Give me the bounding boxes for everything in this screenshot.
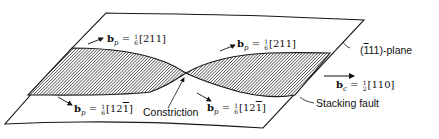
arrow-bp-lower-right [197, 93, 211, 101]
diagram-canvas [0, 0, 439, 139]
bp-upper-left-label: bp = 16[211] [107, 33, 166, 49]
constriction-label: Constriction [143, 106, 198, 118]
arrow-bp-lower-left [58, 97, 72, 105]
stacking-fault-right [186, 53, 330, 97]
bc-label: bc = 12[110] [336, 79, 394, 95]
bp-upper-right-label: bp = 16[211] [237, 38, 296, 54]
stacking-fault-left [28, 48, 186, 95]
bp-lower-right-label: bp = 16[121] [207, 102, 266, 118]
leader-plane [343, 42, 350, 48]
leader-stacking-fault [300, 97, 314, 103]
bp-lower-left-label: bp = 16[121] [74, 103, 133, 119]
arrow-bp-upper-left [88, 38, 103, 44]
stacking-fault-label: Stacking fault [316, 97, 379, 109]
arrow-bp-upper-right [220, 45, 235, 51]
plane-label: (111)-plane [360, 44, 412, 56]
